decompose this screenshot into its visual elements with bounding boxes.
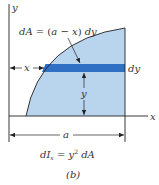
differential-strip [42,64,125,72]
x-distance-label: x [24,62,30,73]
moment-formula: dIx = y2 dA [40,148,95,161]
moment-of-inertia-diagram: y x dA = (a − x) dy dy x y a dIx = y2 dA… [0,0,159,185]
y-axis-label: y [11,2,18,13]
thickness-label: dy [128,63,140,74]
figure-caption: (b) [66,169,80,180]
strip-area-label: dA = (a − x) dy [19,26,97,37]
y-height-label: y [80,88,87,99]
a-width-label: a [63,129,69,140]
x-axis-label: x [150,111,156,122]
